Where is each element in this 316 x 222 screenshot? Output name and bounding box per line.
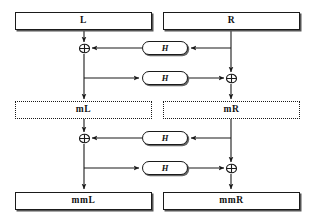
xor-gate-4 [226, 163, 237, 174]
xor-gate-3 [79, 133, 90, 144]
hash-function-label-2: H [143, 74, 187, 83]
register-label-mR: mR [164, 105, 299, 115]
hash-function-box-3: H [142, 131, 188, 145]
hash-function-label-3: H [143, 134, 187, 143]
register-box-mL: mL [15, 101, 152, 119]
diagram-canvas: L R mL mR mmL mmR H H H H [0, 0, 316, 222]
hash-function-label-1: H [143, 44, 187, 53]
register-label-L: L [16, 16, 151, 26]
register-box-mR: mR [163, 101, 300, 119]
register-box-R: R [163, 12, 300, 30]
hash-function-box-4: H [142, 161, 188, 175]
hash-function-box-2: H [142, 71, 188, 85]
xor-gate-2 [226, 73, 237, 84]
register-label-mL: mL [16, 105, 151, 115]
register-box-mmR: mmR [163, 192, 300, 210]
hash-function-label-4: H [143, 164, 187, 173]
register-label-R: R [164, 16, 299, 26]
hash-function-box-1: H [142, 41, 188, 55]
xor-gate-1 [79, 43, 90, 54]
register-box-mmL: mmL [15, 192, 152, 210]
register-label-mmL: mmL [16, 196, 151, 206]
register-label-mmR: mmR [164, 196, 299, 206]
register-box-L: L [15, 12, 152, 30]
